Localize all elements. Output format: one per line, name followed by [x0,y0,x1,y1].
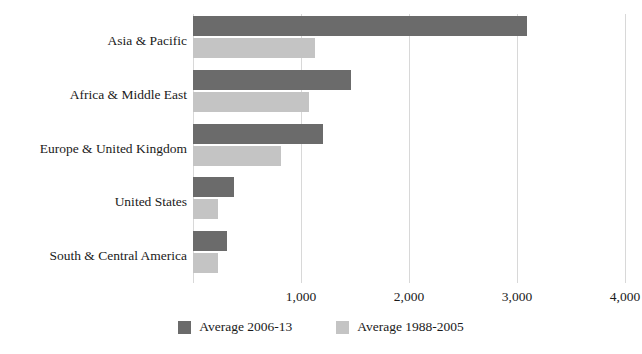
bar [193,253,218,273]
value-axis-labels: 1,0002,0003,0004,000 [0,288,642,310]
bar [193,146,281,166]
legend-label: Average 1988-2005 [357,320,464,334]
gridline [625,14,626,283]
value-tick-label: 2,000 [394,288,424,306]
value-tick-label: 1,000 [286,288,316,306]
bar [193,70,351,90]
category-axis-labels: Asia & PacificAfrica & Middle EastEurope… [0,14,187,283]
category-label: United States [0,195,187,209]
plot-area [193,14,625,283]
value-tick-label: 4,000 [610,288,640,306]
category-label: Europe & United Kingdom [0,142,187,156]
chart-legend: Average 2006-13Average 1988-2005 [0,320,642,334]
category-label: South & Central America [0,249,187,263]
bar [193,124,323,144]
bar [193,199,218,219]
value-tick-label: 3,000 [502,288,532,306]
bar-group [193,70,625,120]
legend-swatch-icon [178,321,191,334]
bar-chart: Asia & PacificAfrica & Middle EastEurope… [0,0,642,354]
bar-group [193,124,625,174]
bar [193,38,315,58]
bar-group [193,16,625,66]
legend-entry[interactable]: Average 1988-2005 [336,320,464,334]
bar [193,92,309,112]
bar-group [193,231,625,281]
category-label: Africa & Middle East [0,88,187,102]
bars-layer [193,14,625,283]
bar [193,231,227,251]
category-label: Asia & Pacific [0,34,187,48]
bar [193,177,234,197]
legend-entry[interactable]: Average 2006-13 [178,320,292,334]
legend-swatch-icon [336,321,349,334]
legend-label: Average 2006-13 [199,320,292,334]
bar [193,16,527,36]
bar-group [193,177,625,227]
